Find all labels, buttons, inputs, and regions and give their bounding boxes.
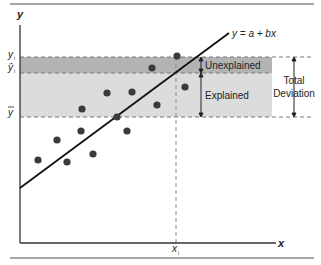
data-point [153,101,160,108]
total-label-line2: Deviation [273,88,315,99]
xi-label: x [171,243,178,254]
unexplained-label: Unexplained [205,60,261,71]
regression-equation-label: y = a + bx [231,28,277,39]
total-deviation-arrow [292,57,296,117]
data-point [103,89,110,96]
data-point [53,136,60,143]
data-point [89,150,96,157]
data-point [148,64,155,71]
ybar-label: y [7,107,14,118]
data-point [123,127,130,134]
x-axis-label: x [277,237,285,249]
data-point [173,52,180,59]
data-point [128,88,135,95]
yhat-subscript: i [14,68,15,74]
xi-subscript: i [178,250,179,256]
data-point [34,156,41,163]
yhat-label: ŷ [7,62,14,73]
data-point [78,105,85,112]
yi-subscript: i [14,55,15,61]
total-label-line1: Total [283,75,304,86]
yi-label: y [7,49,14,60]
regression-diagram: y x y i ŷ i y x i y = a + bx Unexplained… [0,0,321,265]
data-point [181,83,188,90]
data-point [63,158,70,165]
data-point [113,113,120,120]
explained-label: Explained [205,90,249,101]
y-axis-label: y [16,8,24,20]
data-point [77,127,84,134]
